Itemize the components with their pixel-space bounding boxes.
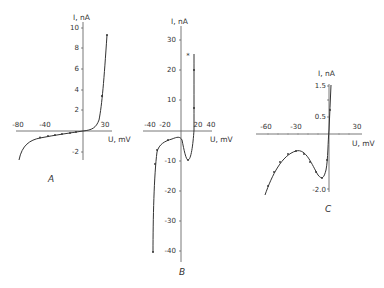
tick-x: -40 (39, 121, 50, 129)
tick-y: 10 (167, 96, 176, 104)
tick-y: 4 (75, 86, 80, 94)
tick-x: 40 (207, 121, 216, 129)
tick-x: 30 (101, 121, 110, 129)
panel-label-b: B (179, 267, 185, 277)
tick-y: 30 (167, 36, 176, 44)
annotation-asterisk: * (186, 52, 190, 60)
panel-a: 10 8 6 4 2 -2 -80 -40 30 I, nA U, mV A (12, 13, 131, 184)
panel-b: 30 20 10 -10 -20 -30 -40 -40 -20 20 40 I… (143, 17, 234, 277)
tick-y: 2 (75, 106, 79, 114)
tick-y: 8 (75, 44, 79, 52)
iv-curve (265, 85, 331, 195)
tick-x: -80 (12, 121, 23, 129)
y-axis-label: I, nA (171, 17, 189, 26)
tick-y: -2.0 (312, 186, 326, 194)
tick-y: 1.5 (315, 82, 326, 90)
y-axis-label: I, nA (73, 13, 91, 22)
tick-x: -40 (144, 121, 155, 129)
tick-x: 30 (353, 123, 362, 131)
tick-y: -20 (165, 187, 176, 195)
tick-x: -30 (290, 123, 301, 131)
iv-curve (19, 35, 107, 160)
tick-y: 20 (167, 66, 176, 74)
tick-y: -2 (72, 148, 79, 156)
tick-y: 10 (70, 24, 79, 32)
tick-y: -30 (165, 217, 176, 225)
panel-label-a: A (47, 174, 54, 184)
tick-x: -60 (260, 123, 271, 131)
tick-x: 20 (194, 121, 203, 129)
tick-x: -20 (159, 121, 170, 129)
tick-y: 6 (75, 65, 80, 73)
x-axis-label: U, mV (108, 135, 132, 144)
x-axis-label: U, mV (210, 135, 234, 144)
y-axis-label: I, nA (318, 69, 336, 78)
tick-y: 0.5 (315, 113, 326, 121)
figure: 10 8 6 4 2 -2 -80 -40 30 I, nA U, mV A 3… (0, 0, 384, 288)
panel-c: 1.5 0.5 -2.0 -60 -30 30 I, nA U, mV C (256, 69, 376, 214)
x-axis-label: U, mV (352, 139, 376, 148)
tick-y: -40 (165, 247, 176, 255)
tick-y: -10 (165, 157, 176, 165)
panel-label-c: C (325, 204, 332, 214)
